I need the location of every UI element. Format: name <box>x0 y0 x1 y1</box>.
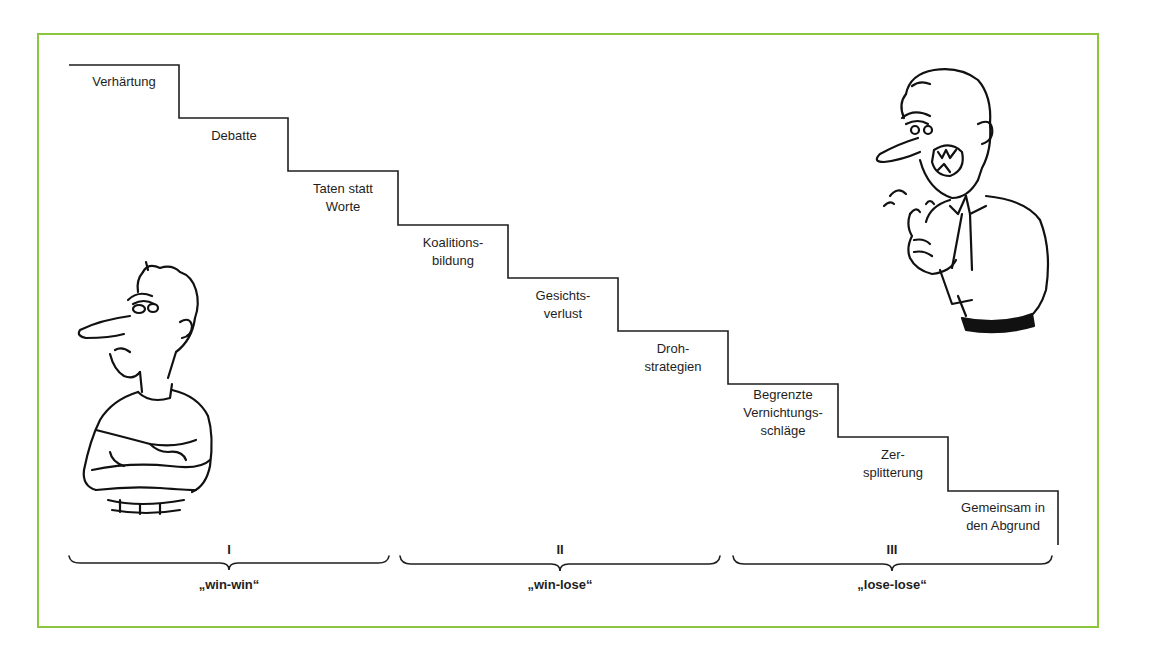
calm-man-figure <box>79 262 212 514</box>
brace-phase-2 <box>400 556 720 571</box>
step-label-8: Zer- splitterung <box>838 446 948 482</box>
brace-phase-1 <box>69 556 389 570</box>
step-label-6: Droh- strategien <box>618 340 728 376</box>
phase-numeral-2: II <box>530 542 590 558</box>
phase-label-lose-lose: „lose-lose“ <box>812 577 972 593</box>
brace-phase-3 <box>733 556 1052 571</box>
step-label-3: Taten statt Worte <box>288 180 398 216</box>
step-label-9: Gemeinsam in den Abgrund <box>948 499 1058 535</box>
phase-numeral-1: I <box>199 542 259 558</box>
step-label-1: Verhärtung <box>69 73 179 91</box>
step-label-5: Gesichts- verlust <box>508 287 618 323</box>
phase-numeral-3: III <box>862 542 922 558</box>
phase-label-win-win: „win-win“ <box>149 577 309 593</box>
step-label-4: Koalitions- bildung <box>398 234 508 270</box>
phase-label-win-lose: „win-lose“ <box>480 577 640 593</box>
angry-man-figure <box>877 69 1048 332</box>
step-label-7: Begrenzte Vernichtungs- schläge <box>728 386 838 440</box>
step-label-2: Debatte <box>179 127 289 145</box>
